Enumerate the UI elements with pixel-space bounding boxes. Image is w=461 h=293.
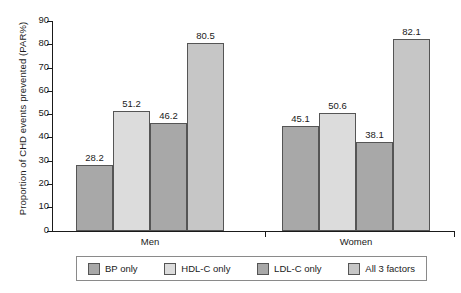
bar xyxy=(113,111,150,230)
bar-value-label: 51.2 xyxy=(122,98,141,109)
bar-value-label: 38.1 xyxy=(365,129,384,140)
legend-swatch-icon xyxy=(88,263,100,275)
bar xyxy=(393,39,430,230)
legend-swatch-icon xyxy=(348,263,360,275)
legend-label: HDL-C only xyxy=(181,263,230,274)
x-group-label: Women xyxy=(340,236,373,247)
legend-label: LDL-C only xyxy=(274,263,322,274)
y-tick-label: 10 xyxy=(38,200,49,211)
y-tick-label: 20 xyxy=(38,177,49,188)
y-tick-label: 60 xyxy=(38,84,49,95)
y-axis-title: Proportion of CHD events prevented (PAR%… xyxy=(17,4,28,234)
y-tick-label: 40 xyxy=(38,130,49,141)
y-tick-label: 90 xyxy=(38,14,49,25)
bar xyxy=(356,142,393,231)
y-tick-label: 80 xyxy=(38,37,49,48)
legend-item: LDL-C only xyxy=(257,263,322,275)
bar xyxy=(319,113,356,231)
legend-swatch-icon xyxy=(164,263,176,275)
bar-value-label: 28.2 xyxy=(85,152,104,163)
y-axis-line xyxy=(52,21,53,232)
legend-swatch-icon xyxy=(257,263,269,275)
bar-value-label: 46.2 xyxy=(159,110,178,121)
y-tick-label: 50 xyxy=(38,107,49,118)
plot-area: 9080706050403020100 28.251.246.280.545.1… xyxy=(52,21,455,232)
bar xyxy=(187,43,224,230)
bar xyxy=(282,126,319,231)
x-tick-mark xyxy=(265,232,266,237)
y-tick-label: 30 xyxy=(38,154,49,165)
bar xyxy=(150,123,187,231)
legend-label: All 3 factors xyxy=(365,263,415,274)
chart-legend: BP onlyHDL-C onlyLDL-C onlyAll 3 factors xyxy=(76,256,427,281)
y-tick-label: 0 xyxy=(44,224,49,235)
x-group-label: Men xyxy=(141,236,159,247)
y-tick-label: 70 xyxy=(38,61,49,72)
bar-value-label: 50.6 xyxy=(328,100,347,111)
legend-item: HDL-C only xyxy=(164,263,230,275)
bar-value-label: 82.1 xyxy=(402,26,421,37)
x-tick-mark xyxy=(454,232,455,237)
legend-item: BP only xyxy=(88,263,138,275)
bar xyxy=(76,165,113,231)
legend-item: All 3 factors xyxy=(348,263,415,275)
bar-value-label: 80.5 xyxy=(196,30,215,41)
bar-value-label: 45.1 xyxy=(291,113,310,124)
x-axis-line xyxy=(52,231,455,232)
chart-figure: Proportion of CHD events prevented (PAR%… xyxy=(0,0,461,293)
legend-label: BP only xyxy=(105,263,138,274)
